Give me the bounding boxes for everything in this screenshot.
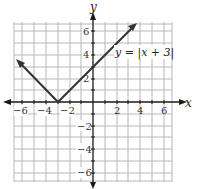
y-tick-neg6: −6 [77, 167, 92, 178]
x-tick-2: 2 [114, 105, 120, 116]
equation-label: y = |x + 3| [114, 46, 174, 60]
x-tick-neg4: −4 [37, 105, 52, 116]
x-axis-label: x [185, 96, 192, 110]
x-tick-neg6: −6 [13, 105, 28, 116]
y-tick-4: 4 [83, 49, 89, 60]
x-tick-4: 4 [137, 105, 143, 116]
x-axis [3, 99, 187, 105]
y-tick-6: 6 [83, 26, 89, 37]
coordinate-plane: −6 −4 −2 2 4 6 6 4 2 −2 −4 −6 x y y = |x… [0, 0, 198, 189]
x-tick-neg2: −2 [60, 105, 75, 116]
y-tick-neg2: −2 [77, 121, 92, 132]
x-axis-left-arrow-icon [3, 99, 11, 105]
y-axis-label: y [89, 0, 97, 14]
y-axis-down-arrow-icon [90, 182, 96, 189]
y-tick-neg4: −4 [77, 144, 92, 155]
x-tick-6: 6 [161, 105, 167, 116]
y-axis [90, 12, 96, 189]
